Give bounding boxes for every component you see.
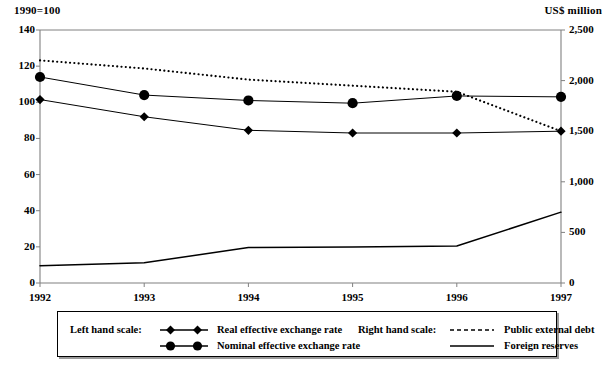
circle-marker-icon <box>157 340 211 352</box>
legend-item-public-external-debt: Public external debt <box>504 324 594 335</box>
x-axis-tick-1993: 1993 <box>120 292 168 303</box>
axis-frame <box>40 30 561 283</box>
y2-axis-tick-0: 0 <box>569 277 575 288</box>
chart-legend: Left hand scale: Real effective exchange… <box>57 311 557 357</box>
y2-axis-tick-2000: 2,000 <box>569 75 594 86</box>
x-axis-tick-1994: 1994 <box>224 292 272 303</box>
x-axis-tick-1992: 1992 <box>16 292 64 303</box>
chart-plot-area: 02040608010012014005001,0001,5002,0002,5… <box>0 0 614 310</box>
series-nominal-effective-exchange-rate <box>35 72 566 108</box>
chart-canvas <box>0 0 614 310</box>
legend-item-foreign-reserves: Foreign reserves <box>504 340 578 351</box>
axis-tick-marks <box>36 30 565 287</box>
y-axis-tick-80: 80 <box>2 132 35 143</box>
legend-right-scale-label: Right hand scale: <box>358 324 436 335</box>
series-foreign-reserves <box>40 212 561 266</box>
diamond-marker-icon <box>157 324 211 336</box>
y-axis-tick-40: 40 <box>2 205 35 216</box>
x-axis-tick-1995: 1995 <box>329 292 377 303</box>
dashed-line-icon <box>448 324 496 336</box>
y-axis-tick-60: 60 <box>2 169 35 180</box>
legend-left-scale-label: Left hand scale: <box>70 324 142 335</box>
legend-item-nominal-effective-exchange-rate: Nominal effective exchange rate <box>217 340 360 351</box>
y-axis-tick-100: 100 <box>2 96 35 107</box>
y2-axis-tick-1000: 1,000 <box>569 176 594 187</box>
y-axis-tick-20: 20 <box>2 241 35 252</box>
y2-axis-tick-500: 500 <box>569 226 586 237</box>
legend-item-real-effective-exchange-rate: Real effective exchange rate <box>217 324 342 335</box>
y2-axis-tick-1500: 1,500 <box>569 125 594 136</box>
y-axis-tick-0: 0 <box>2 277 35 288</box>
x-axis-tick-1997: 1997 <box>537 292 585 303</box>
data-series-group <box>35 60 566 265</box>
solid-line-icon <box>448 340 496 352</box>
y-axis-tick-120: 120 <box>2 60 35 71</box>
y-axis-tick-140: 140 <box>2 24 35 35</box>
x-axis-tick-1996: 1996 <box>433 292 481 303</box>
y2-axis-tick-2500: 2,500 <box>569 24 594 35</box>
